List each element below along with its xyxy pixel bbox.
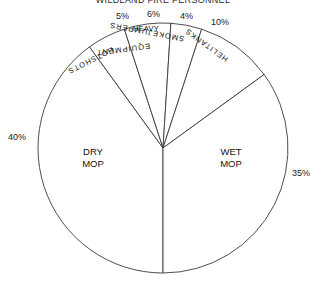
slice-label-dry-mop: DRY MOP [58,146,128,170]
percent-label-dry-mop: 40% [8,132,26,142]
percent-label-smokejumpers: 4% [180,11,193,21]
pie-chart-graphic [0,0,326,294]
slice-label-dry-mop-line2: MOP [58,158,128,170]
percent-label-helitanks: 10% [211,17,229,27]
percent-label-heavy-equipment: 6% [147,9,160,19]
slice-label-wet-mop: WET MOP [196,146,266,170]
slice-label-wet-mop-line2: MOP [196,158,266,170]
pie-chart-figure: WILDLAND FIRE PERSONNEL 40% 5% 6% 4% 10%… [0,0,326,294]
percent-label-wet-mop: 35% [292,168,310,178]
slice-label-dry-mop-line1: DRY [58,146,128,158]
slice-label-wet-mop-line1: WET [196,146,266,158]
percent-label-hotshots: 5% [116,11,129,21]
